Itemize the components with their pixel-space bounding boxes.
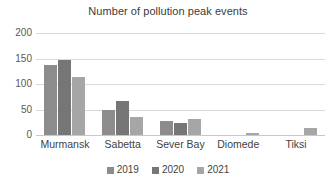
- x-tick-label: Diomede: [209, 138, 267, 150]
- x-tick-label: Sever Bay: [152, 138, 210, 150]
- bar: [72, 77, 85, 135]
- chart-legend: 201920202021: [0, 165, 336, 175]
- y-tick-label: 150: [2, 54, 32, 64]
- x-axis: MurmanskSabettaSever BayDiomedeTiksi: [36, 138, 325, 156]
- bar: [174, 123, 187, 135]
- y-tick-label: 200: [2, 28, 32, 38]
- legend-swatch-icon: [152, 167, 159, 174]
- bar: [246, 133, 259, 135]
- legend-swatch-icon: [197, 167, 204, 174]
- bar-group: [160, 33, 201, 135]
- bar: [116, 101, 129, 135]
- bar: [188, 119, 201, 135]
- bar-group: [276, 33, 317, 135]
- bar: [130, 117, 143, 135]
- legend-label: 2021: [207, 165, 229, 175]
- chart-title: Number of pollution peak events: [0, 5, 336, 17]
- x-tick-label: Murmansk: [36, 138, 94, 150]
- legend-item-2020[interactable]: 2020: [152, 165, 184, 175]
- bar: [160, 121, 173, 135]
- legend-label: 2019: [117, 165, 139, 175]
- x-tick-label: Sabetta: [94, 138, 152, 150]
- y-axis: 050100150200: [0, 33, 32, 135]
- bar-group: [218, 33, 259, 135]
- bar: [58, 60, 71, 135]
- y-tick-label: 0: [2, 130, 32, 140]
- gridline-0: [36, 135, 325, 136]
- bars-layer: [36, 33, 325, 135]
- bar-chart: Number of pollution peak events 05010015…: [0, 0, 336, 185]
- bar: [44, 65, 57, 135]
- x-tick-label: Tiksi: [267, 138, 325, 150]
- y-tick-label: 100: [2, 79, 32, 89]
- legend-item-2019[interactable]: 2019: [107, 165, 139, 175]
- bar: [304, 128, 317, 135]
- bar-group: [102, 33, 143, 135]
- legend-item-2021[interactable]: 2021: [197, 165, 229, 175]
- legend-swatch-icon: [107, 167, 114, 174]
- y-tick-label: 50: [2, 105, 32, 115]
- bar: [102, 110, 115, 135]
- legend-label: 2020: [162, 165, 184, 175]
- bar-group: [44, 33, 85, 135]
